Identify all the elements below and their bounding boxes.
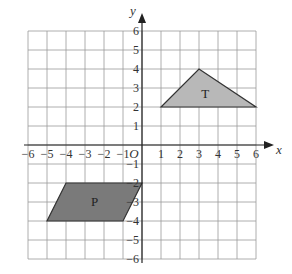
- y-tick-label: −6: [126, 252, 139, 266]
- y-tick-label: −3: [126, 195, 139, 209]
- x-tick-label: −4: [60, 147, 73, 161]
- y-axis-arrow-icon: [138, 13, 146, 23]
- x-tick-label: −2: [98, 147, 111, 161]
- y-tick-label: 3: [133, 81, 139, 95]
- x-tick-label: 1: [158, 147, 164, 161]
- shape-label-p: P: [91, 194, 98, 209]
- x-tick-label: −6: [22, 147, 35, 161]
- y-tick-label: 6: [133, 24, 139, 38]
- y-tick-label: 2: [133, 100, 139, 114]
- y-tick-label: −4: [126, 214, 139, 228]
- y-tick-label: 4: [133, 62, 139, 76]
- coordinate-grid: TP−6−5−4−3−2−1123456654321−1−2−3−4−5−6Ox…: [0, 0, 292, 274]
- x-tick-label: 5: [234, 147, 240, 161]
- y-tick-label: −5: [126, 233, 139, 247]
- origin-label: O: [129, 146, 139, 161]
- x-tick-label: −5: [41, 147, 54, 161]
- y-axis-label: y: [128, 3, 136, 18]
- y-tick-label: −2: [126, 176, 139, 190]
- x-tick-label: 3: [196, 147, 202, 161]
- x-tick-label: −3: [79, 147, 92, 161]
- x-tick-label: 6: [253, 147, 259, 161]
- shape-label-t: T: [201, 86, 209, 101]
- x-axis-arrow-icon: [264, 141, 274, 149]
- x-tick-label: 2: [177, 147, 183, 161]
- y-tick-label: 5: [133, 43, 139, 57]
- y-tick-label: 1: [133, 119, 139, 133]
- x-tick-label: 4: [215, 147, 221, 161]
- x-axis-label: x: [275, 142, 282, 157]
